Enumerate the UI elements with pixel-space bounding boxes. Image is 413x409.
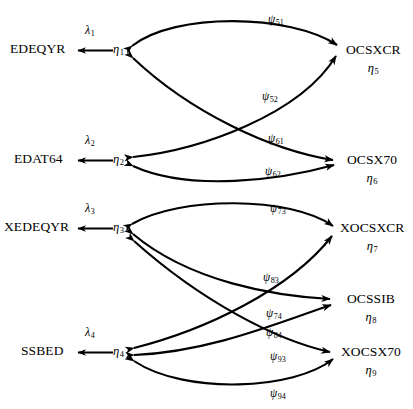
latent-eta-4: η4 bbox=[113, 345, 124, 359]
observed-label-ssbed: SSBED bbox=[21, 344, 64, 358]
psi-label-62: ψ62 bbox=[265, 166, 281, 179]
latent-eta-8: η8 bbox=[347, 310, 395, 325]
latent-eta-6: η6 bbox=[347, 171, 397, 186]
psi-label-61: ψ61 bbox=[268, 133, 284, 146]
observed-label-edeqyr: EDEQYR bbox=[10, 42, 65, 56]
right-node-ocsxcr: OCSXCR η5 bbox=[346, 42, 401, 76]
latent-eta-1: η1 bbox=[113, 43, 124, 57]
psi-label-84: ψ84 bbox=[266, 327, 282, 340]
observed-label-ocsx70: OCSX70 bbox=[347, 152, 397, 168]
observed-label-ocssib: OCSSIB bbox=[347, 291, 395, 307]
psi-label-94: ψ94 bbox=[270, 388, 286, 401]
latent-eta-7: η7 bbox=[340, 239, 404, 254]
latent-eta-5: η5 bbox=[346, 61, 401, 76]
psi-label-93: ψ93 bbox=[270, 351, 286, 364]
psi-path-73 bbox=[132, 203, 333, 226]
psi-label-52: ψ52 bbox=[262, 91, 278, 104]
psi-label-83: ψ83 bbox=[263, 272, 279, 285]
psi-label-51: ψ51 bbox=[268, 14, 284, 27]
latent-eta-3: η3 bbox=[113, 221, 124, 235]
psi-label-74: ψ74 bbox=[266, 308, 282, 321]
right-node-ocsx70: OCSX70 η6 bbox=[347, 152, 397, 186]
psi-path-83 bbox=[133, 234, 330, 299]
observed-label-edat64: EDAT64 bbox=[14, 152, 63, 166]
right-node-ocssib: OCSSIB η8 bbox=[347, 291, 395, 325]
path-diagram: EDEQYR η1 λ1 EDAT64 η2 λ2 XEDEQYR η3 λ3 … bbox=[0, 0, 413, 409]
right-node-xocsx70: XOCSX70 η9 bbox=[341, 344, 401, 378]
observed-label-xedeqyr: XEDEQYR bbox=[4, 220, 69, 234]
psi-label-73: ψ73 bbox=[270, 203, 286, 216]
psi-path-94 bbox=[134, 359, 333, 384]
right-node-xocsxcr: XOCSXCR η7 bbox=[340, 220, 404, 254]
lambda-label-2: λ2 bbox=[85, 134, 95, 148]
lambda-label-1: λ1 bbox=[85, 24, 95, 38]
psi-path-51 bbox=[132, 21, 337, 46]
psi-path-61 bbox=[133, 58, 333, 160]
observed-label-ocsxcr: OCSXCR bbox=[346, 42, 401, 58]
latent-eta-9: η9 bbox=[341, 363, 401, 378]
latent-eta-2: η2 bbox=[113, 153, 124, 167]
observed-label-xocsxcr: XOCSXCR bbox=[340, 220, 404, 236]
lambda-label-3: λ3 bbox=[85, 202, 95, 216]
psi-path-74 bbox=[134, 236, 332, 348]
lambda-label-4: λ4 bbox=[85, 326, 95, 340]
psi-path-62 bbox=[133, 165, 334, 181]
psi-path-52 bbox=[133, 56, 336, 157]
observed-label-xocsx70: XOCSX70 bbox=[341, 344, 401, 360]
